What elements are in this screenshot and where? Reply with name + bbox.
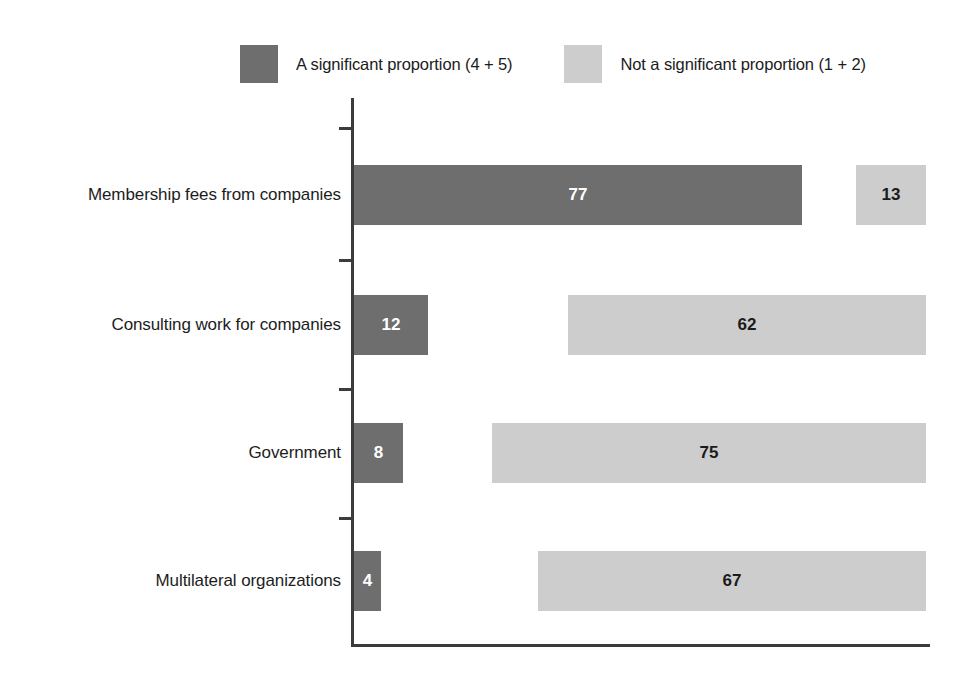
bar-significant-government: 8 — [354, 423, 403, 483]
x-axis-line — [351, 644, 930, 647]
category-label-membership-fees: Membership fees from companies — [88, 165, 341, 225]
legend-item-significant: A significant proportion (4 + 5) — [240, 45, 512, 83]
bar-not-significant-multilateral-organizations: 67 — [538, 551, 926, 611]
bar-row: Membership fees from companies 77 13 — [0, 165, 979, 225]
bar-row: Multilateral organizations 4 67 — [0, 551, 979, 611]
legend-swatch-dark-icon — [240, 45, 278, 83]
bar-value-label: 67 — [723, 571, 742, 591]
y-axis-tick-4 — [339, 517, 352, 520]
y-axis-tick-2 — [339, 259, 352, 262]
category-label-government: Government — [248, 423, 341, 483]
bar-value-label: 77 — [569, 185, 588, 205]
legend-label-not-significant: Not a significant proportion (1 + 2) — [620, 55, 865, 74]
bar-value-label: 4 — [363, 571, 372, 591]
legend-item-not-significant: Not a significant proportion (1 + 2) — [564, 45, 865, 83]
category-label-consulting-work: Consulting work for companies — [111, 295, 341, 355]
bar-value-label: 75 — [700, 443, 719, 463]
legend-swatch-light-icon — [564, 45, 602, 83]
legend-label-significant: A significant proportion (4 + 5) — [296, 55, 512, 74]
bar-row: Consulting work for companies 12 62 — [0, 295, 979, 355]
bar-significant-membership-fees: 77 — [354, 165, 802, 225]
y-axis-tick-3 — [339, 388, 352, 391]
y-axis-tick-1 — [339, 127, 352, 130]
bar-not-significant-consulting-work: 62 — [568, 295, 926, 355]
bar-value-label: 8 — [374, 443, 383, 463]
chart-legend: A significant proportion (4 + 5) Not a s… — [240, 45, 866, 83]
bar-not-significant-membership-fees: 13 — [856, 165, 926, 225]
bar-not-significant-government: 75 — [492, 423, 926, 483]
bar-value-label: 13 — [882, 185, 901, 205]
bar-value-label: 62 — [738, 315, 757, 335]
category-label-multilateral-organizations: Multilateral organizations — [156, 551, 341, 611]
bar-significant-multilateral-organizations: 4 — [354, 551, 381, 611]
grouped-bar-chart: A significant proportion (4 + 5) Not a s… — [0, 0, 979, 682]
bar-value-label: 12 — [382, 315, 401, 335]
bar-significant-consulting-work: 12 — [354, 295, 428, 355]
bar-row: Government 8 75 — [0, 423, 979, 483]
